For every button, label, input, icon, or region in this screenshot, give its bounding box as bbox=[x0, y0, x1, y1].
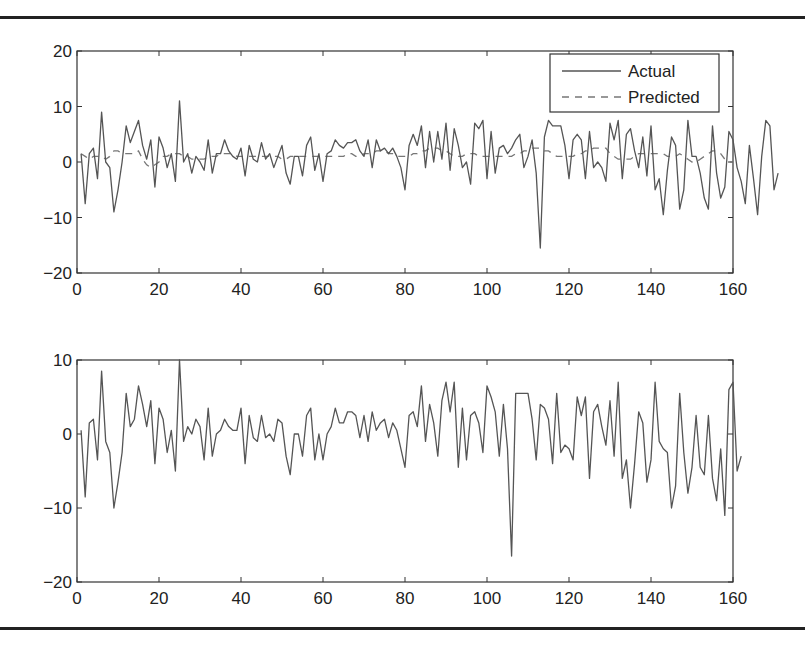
x-tick-label: 140 bbox=[637, 280, 665, 299]
y-tick-label: −20 bbox=[43, 264, 72, 283]
y-tick-label: 0 bbox=[63, 153, 72, 172]
bottom-x-tick-labels: 020406080100120140160 bbox=[72, 589, 747, 608]
y-tick-label: −10 bbox=[43, 209, 72, 228]
y-tick-label: 20 bbox=[53, 42, 72, 61]
residual-line bbox=[81, 360, 741, 556]
bottom-y-tick-labels: 100−10−20 bbox=[43, 351, 72, 592]
y-tick-label: 10 bbox=[53, 351, 72, 370]
top-y-tick-labels: 20100−10−20 bbox=[43, 42, 72, 283]
x-tick-label: 40 bbox=[232, 280, 251, 299]
legend: Actual Predicted bbox=[550, 54, 719, 112]
y-tick-label: −10 bbox=[43, 499, 72, 518]
x-tick-label: 60 bbox=[314, 280, 333, 299]
top-x-tick-labels: 020406080100120140160 bbox=[72, 280, 747, 299]
x-tick-label: 20 bbox=[150, 589, 169, 608]
x-tick-label: 20 bbox=[150, 280, 169, 299]
x-tick-label: 0 bbox=[72, 589, 81, 608]
bottom-panel: 100−10−20 020406080100120140160 bbox=[43, 351, 747, 608]
legend-predicted-label: Predicted bbox=[628, 88, 700, 107]
x-tick-label: 80 bbox=[396, 589, 415, 608]
x-tick-label: 160 bbox=[719, 589, 747, 608]
x-tick-label: 0 bbox=[72, 280, 81, 299]
actual-line bbox=[81, 101, 778, 248]
x-tick-label: 160 bbox=[719, 280, 747, 299]
legend-actual-label: Actual bbox=[628, 62, 675, 81]
x-tick-label: 80 bbox=[396, 280, 415, 299]
y-tick-label: −20 bbox=[43, 573, 72, 592]
y-tick-label: 10 bbox=[53, 98, 72, 117]
figure: 20100−10−20 020406080100120140160 Actual… bbox=[0, 0, 805, 656]
x-tick-label: 60 bbox=[314, 589, 333, 608]
x-tick-label: 140 bbox=[637, 589, 665, 608]
x-tick-label: 100 bbox=[473, 589, 501, 608]
x-tick-label: 40 bbox=[232, 589, 251, 608]
x-tick-label: 100 bbox=[473, 280, 501, 299]
x-tick-label: 120 bbox=[555, 589, 583, 608]
y-tick-label: 0 bbox=[63, 425, 72, 444]
x-tick-label: 120 bbox=[555, 280, 583, 299]
top-panel: 20100−10−20 020406080100120140160 Actual… bbox=[43, 42, 778, 299]
